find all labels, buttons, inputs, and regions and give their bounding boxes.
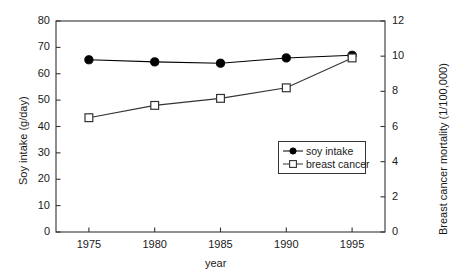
data-point-soy-intake (282, 54, 290, 62)
legend-item-soy-intake: soy intake (282, 144, 362, 157)
data-point-soy-intake (85, 56, 93, 64)
data-point-soy-intake (216, 59, 224, 67)
x-axis-tick-label: 1990 (266, 238, 306, 250)
data-point-breast-cancer (217, 94, 225, 102)
y-axis-left-tick-label: 40 (24, 120, 50, 132)
y-axis-left-tick-label: 80 (24, 14, 50, 26)
data-point-breast-cancer (282, 84, 290, 92)
y-axis-right-tick-label: 12 (392, 14, 418, 26)
data-point-breast-cancer (348, 54, 356, 62)
legend-item-breast-cancer: breast cancer (282, 157, 362, 170)
chart-figure: Soy intake (g/day) Breast cancer mortali… (0, 0, 455, 279)
x-axis-title: year (205, 257, 226, 269)
y-axis-right-tick-label: 10 (392, 49, 418, 61)
legend-label-breast-cancer: breast cancer (306, 158, 370, 170)
y-axis-left-tick-label: 20 (24, 172, 50, 184)
y-axis-left-tick-label: 60 (24, 67, 50, 79)
data-point-soy-intake (151, 58, 159, 66)
y-axis-right-tick-label: 4 (392, 155, 418, 167)
data-point-breast-cancer (85, 114, 93, 122)
y-axis-right-tick-label: 2 (392, 190, 418, 202)
plot-frame (56, 21, 385, 232)
x-axis-tick-label: 1985 (201, 238, 241, 250)
y-axis-left-tick-label: 50 (24, 93, 50, 105)
chart-legend: soy intake breast cancer (278, 141, 366, 174)
legend-label-soy-intake: soy intake (306, 145, 353, 157)
y-axis-right-title: Breast cancer mortality (1/100,000) (437, 63, 449, 235)
x-axis-tick-label: 1995 (332, 238, 372, 250)
y-axis-right-tick-label: 6 (392, 120, 418, 132)
y-axis-left-tick-label: 30 (24, 146, 50, 158)
data-point-breast-cancer (151, 102, 159, 110)
filled-circle-icon (282, 145, 304, 157)
y-axis-right-tick-label: 0 (392, 225, 418, 237)
y-axis-left-tick-label: 0 (24, 225, 50, 237)
y-axis-right-tick-label: 8 (392, 84, 418, 96)
x-axis-tick-label: 1980 (135, 238, 175, 250)
y-axis-left-tick-label: 10 (24, 199, 50, 211)
x-axis-tick-label: 1975 (69, 238, 109, 250)
y-axis-left-tick-label: 70 (24, 40, 50, 52)
open-square-icon (282, 158, 304, 170)
